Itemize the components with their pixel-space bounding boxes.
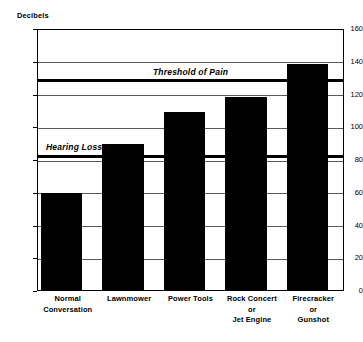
bar: [287, 64, 328, 290]
x-axis-label-line: or: [283, 305, 344, 316]
x-axis-label-line: Power Tools: [160, 294, 221, 305]
x-axis-category-label: FirecrackerorGunshot: [283, 294, 344, 326]
x-axis-category-label: Power Tools: [160, 294, 221, 305]
x-axis-category-label: Rock ConcertorJet Engine: [221, 294, 282, 326]
x-axis-label-line: Gunshot: [283, 315, 344, 326]
bar: [41, 193, 82, 290]
x-axis-label-line: or: [221, 305, 282, 316]
hearing-loss-line: [38, 155, 343, 158]
bar: [164, 112, 205, 290]
bar: [102, 144, 143, 290]
x-axis-category-label: NormalConversation: [37, 294, 98, 315]
decibel-bar-chart: Decibels 020406080100120140160 Threshold…: [0, 0, 363, 342]
x-axis-label-line: Rock Concert: [221, 294, 282, 305]
x-axis-label-line: Normal: [37, 294, 98, 305]
y-axis-tick-mark: [33, 291, 37, 292]
threshold-of-pain-line: [38, 79, 343, 82]
y-axis-title: Decibels: [17, 11, 49, 20]
x-axis-label-line: Firecracker: [283, 294, 344, 305]
x-axis-label-line: Jet Engine: [221, 315, 282, 326]
bar: [225, 97, 266, 290]
x-axis-label-line: Conversation: [37, 305, 98, 316]
plot-area: Threshold of PainHearing Loss: [37, 29, 344, 291]
x-axis-category-labels: NormalConversationLawnmowerPower ToolsRo…: [37, 294, 344, 340]
hearing-loss-label: Hearing Loss: [46, 143, 102, 152]
x-axis-label-line: Lawnmower: [98, 294, 159, 305]
x-axis-category-label: Lawnmower: [98, 294, 159, 305]
threshold-of-pain-label: Threshold of Pain: [153, 68, 228, 77]
